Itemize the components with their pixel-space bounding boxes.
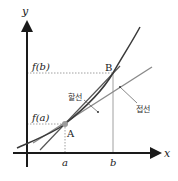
tangent-leader-dot (119, 86, 121, 88)
b-tick-label: b (110, 157, 116, 168)
point-a-label: A (66, 128, 75, 139)
a-tick-label: a (62, 157, 68, 168)
y-axis-label: y (21, 5, 29, 18)
secant-tangent-diagram: y x f(b) f(a) B A a b 할선 접선 (0, 0, 178, 181)
tangent-leader (120, 87, 137, 103)
x-axis-label: x (164, 147, 171, 160)
secant-label: 할선 (68, 92, 82, 102)
fa-label: f(a) (31, 112, 50, 123)
tangent-line (33, 67, 152, 143)
point-b-label: B (105, 62, 112, 73)
fb-label: f(b) (31, 61, 50, 72)
secant-line (40, 66, 120, 150)
secant-leader-dot (97, 111, 99, 113)
point-a-marker (62, 121, 68, 127)
tangent-label: 접선 (136, 104, 150, 114)
function-curve (17, 27, 140, 148)
